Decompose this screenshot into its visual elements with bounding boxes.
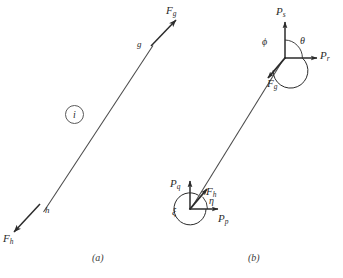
label-angle-phi: ϕ	[262, 37, 267, 47]
label-force-fh-a: Fh	[3, 233, 13, 246]
label-angle-eta: η	[209, 196, 214, 206]
force-vector-fg-a	[151, 20, 176, 46]
label-force-fg-a: Fg	[166, 5, 176, 18]
caption-panel-b: (b)	[248, 253, 260, 263]
label-ps: Ps	[276, 6, 286, 19]
angle-arc-phi	[273, 58, 308, 88]
vector-fg-b	[268, 58, 285, 78]
panel-b-geometry	[174, 22, 317, 225]
caption-panel-a: (a)	[92, 253, 104, 263]
member-node-i: i	[65, 105, 84, 124]
label-angle-theta: θ	[300, 36, 305, 46]
label-angle-xi: ξ	[172, 207, 176, 217]
member-line-a	[44, 46, 154, 213]
label-end-h: h	[45, 206, 50, 215]
figure-root: Fg g i h Fh (a) Ps ϕ θ Pr Fg Pq Fh η ξ P…	[0, 0, 343, 278]
joint-dot-lower	[189, 208, 191, 210]
label-force-fg-b: Fg	[267, 78, 277, 91]
label-pq: Pq	[170, 178, 180, 191]
label-pr: Pr	[320, 50, 330, 63]
joint-dot-upper	[284, 57, 286, 59]
label-pp: Pp	[218, 213, 228, 226]
force-vector-fh-a	[14, 204, 40, 232]
figure-canvas	[0, 0, 343, 278]
label-end-g: g	[137, 40, 142, 49]
panel-a-geometry	[14, 20, 176, 232]
angle-arc-eta	[203, 197, 208, 209]
